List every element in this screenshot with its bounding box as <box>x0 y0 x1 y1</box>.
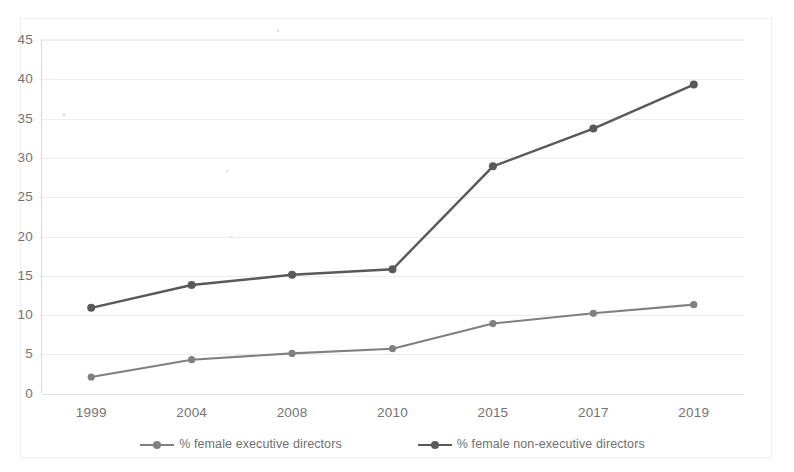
series-layer <box>0 0 794 472</box>
legend-line-marker-icon <box>418 439 452 450</box>
data-point-marker[interactable] <box>590 310 597 317</box>
data-point-marker[interactable] <box>690 301 697 308</box>
chart-legend: % female executive directors % female no… <box>41 437 744 451</box>
data-point-marker[interactable] <box>389 345 396 352</box>
data-point-marker[interactable] <box>690 81 698 89</box>
data-point-marker[interactable] <box>288 350 295 357</box>
legend-label-non-executive: % female non-executive directors <box>457 437 645 451</box>
legend-label-executive: % female executive directors <box>179 437 342 451</box>
series-executive <box>88 301 698 381</box>
data-point-marker[interactable] <box>589 125 597 133</box>
data-point-marker[interactable] <box>188 356 195 363</box>
legend-line-marker-icon <box>140 439 174 450</box>
data-point-marker[interactable] <box>188 281 196 289</box>
data-point-marker[interactable] <box>389 265 397 273</box>
line-chart: 051015202530354045 199920042008201020152… <box>0 0 794 472</box>
series-non-executive <box>87 81 698 312</box>
legend-item-non-executive[interactable]: % female non-executive directors <box>418 437 645 451</box>
series-line <box>91 305 694 377</box>
data-point-marker[interactable] <box>489 162 497 170</box>
series-line <box>91 85 694 308</box>
data-point-marker[interactable] <box>489 320 496 327</box>
legend-item-executive[interactable]: % female executive directors <box>140 437 342 451</box>
data-point-marker[interactable] <box>288 271 296 279</box>
data-point-marker[interactable] <box>88 373 95 380</box>
data-point-marker[interactable] <box>87 304 95 312</box>
